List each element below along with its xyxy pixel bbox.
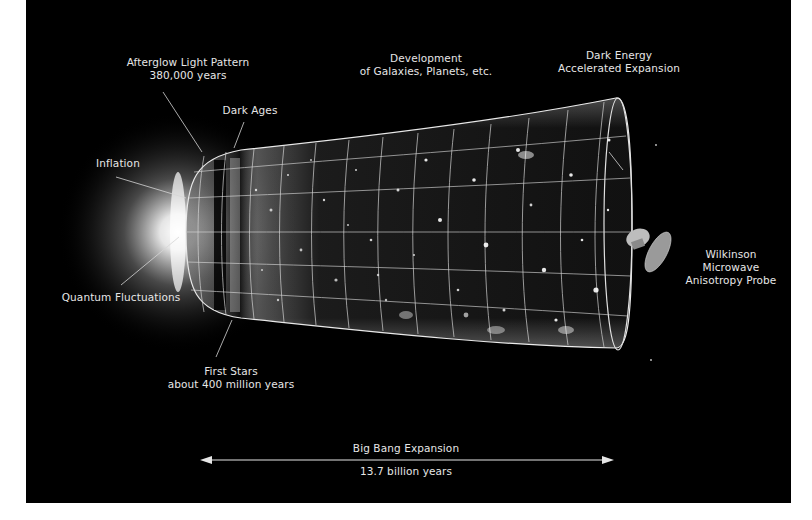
diagram-panel: Afterglow Light Pattern 380,000 years Da… [26,0,791,503]
first-stars-band [230,158,240,312]
timeline-duration: 13.7 billion years [331,465,481,478]
inflation-label: Inflation [88,157,148,170]
timeline-arrow [200,456,614,464]
timeline-title: Big Bang Expansion [331,442,481,455]
dark-energy-label: Dark Energy Accelerated Expansion [549,49,689,75]
quantum-fluctuations-label: Quantum Fluctuations [56,291,186,304]
development-label: Development of Galaxies, Planets, etc. [351,52,501,78]
wmap-label: Wilkinson Microwave Anisotropy Probe [676,248,786,287]
afterglow-label: Afterglow Light Pattern 380,000 years [118,56,258,82]
dark-ages-band [214,160,226,310]
dark-ages-label: Dark Ages [215,104,285,117]
first-stars-label: First Stars about 400 million years [161,365,301,391]
